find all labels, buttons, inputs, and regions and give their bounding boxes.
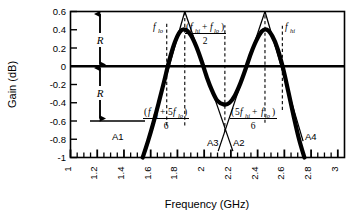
- y-axis-title: Gain (dB): [6, 61, 18, 108]
- hi6-paren-close: ): [272, 107, 275, 118]
- lo6-f2: f: [173, 107, 177, 117]
- x-tick-label: 1.6: [142, 167, 153, 180]
- y-tick-label: -1: [58, 152, 66, 163]
- y-tick-label: 0.6: [53, 6, 66, 17]
- y-tick-label: -0.6: [50, 116, 66, 127]
- f-lo-sub: lo: [158, 27, 164, 34]
- hi6-paren-open: (: [231, 107, 234, 118]
- annotation-f-hi: f hi: [285, 22, 295, 34]
- mid-paren-close: ): [221, 22, 224, 33]
- x-tick-label: 1.8: [168, 167, 179, 180]
- label-a1: A1: [112, 131, 124, 142]
- ripple-upper-label: R: [96, 34, 104, 46]
- x-tick-labels: 11.21.41.61.822.22.42.62.83: [62, 167, 340, 180]
- annotation-upper-sixth-formula: ( 5 f hi + f lo ) 6: [230, 107, 277, 131]
- x-tick-label: 2.8: [302, 167, 313, 180]
- y-tick-label: -0.2: [50, 79, 66, 90]
- lo6-f1: f: [148, 107, 152, 117]
- chart-canvas: 0.6 0.4 0.2 0 -0.2 -0.4 -0.6 -0.8 -1 Gai…: [0, 0, 355, 217]
- ripple-lower-label: R: [96, 87, 104, 99]
- f-hi-sub: hi: [290, 27, 295, 34]
- x-tick-label: 2.2: [222, 167, 233, 180]
- f-lo-base: f: [153, 22, 157, 32]
- y-tick-label: 0: [61, 61, 66, 72]
- mid-denominator: 2: [203, 36, 208, 46]
- hi6-f1: f: [240, 107, 244, 117]
- mid-plus: +: [202, 22, 207, 32]
- x-axis-title: Frequency (GHz): [165, 198, 249, 210]
- lo6-denominator: 6: [164, 121, 169, 131]
- label-a2: A2: [233, 137, 245, 148]
- hi6-denominator: 6: [251, 121, 256, 131]
- x-tick-label: 1.4: [115, 167, 126, 180]
- annotation-midpoint-formula: ( f hi + f lo ) 2: [185, 22, 226, 46]
- mid-f1: f: [190, 22, 194, 32]
- y-tick-label: -0.4: [50, 97, 66, 108]
- x-tick-label: 2: [195, 167, 206, 172]
- annotation-f-lo: f lo: [153, 22, 164, 34]
- label-a4: A4: [305, 131, 317, 142]
- y-tick-label: -0.8: [50, 134, 66, 145]
- y-tick-label: 0.2: [53, 43, 66, 54]
- x-tick-label: 1: [62, 167, 73, 172]
- x-tick-label: 3: [329, 167, 340, 172]
- lo6-paren-close: ): [184, 107, 187, 118]
- y-axis-ticks: [71, 12, 78, 158]
- x-axis-ticks: [71, 150, 338, 158]
- lo6-plus: +: [160, 107, 165, 117]
- y-tick-labels: 0.6 0.4 0.2 0 -0.2 -0.4 -0.6 -0.8 -1: [50, 6, 66, 163]
- mid-paren-open: (: [186, 22, 189, 33]
- f-hi-base: f: [285, 22, 289, 32]
- x-tick-label: 2.6: [275, 167, 286, 180]
- gain-vs-frequency-chart: 0.6 0.4 0.2 0 -0.2 -0.4 -0.6 -0.8 -1 Gai…: [0, 0, 355, 217]
- hi6-plus: +: [252, 107, 257, 117]
- x-tick-label: 2.4: [249, 167, 260, 180]
- label-a3: A3: [207, 137, 219, 148]
- y-tick-label: 0.4: [53, 24, 66, 35]
- x-tick-label: 1.2: [88, 167, 99, 180]
- lo6-paren-open: (: [144, 107, 147, 118]
